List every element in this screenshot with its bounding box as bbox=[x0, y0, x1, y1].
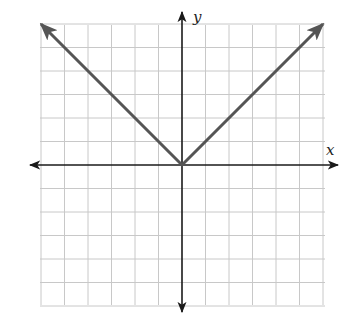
x-axis-label: x bbox=[326, 141, 335, 159]
y-axis-label: y bbox=[192, 8, 202, 26]
coordinate-plane: x y bbox=[0, 0, 351, 323]
